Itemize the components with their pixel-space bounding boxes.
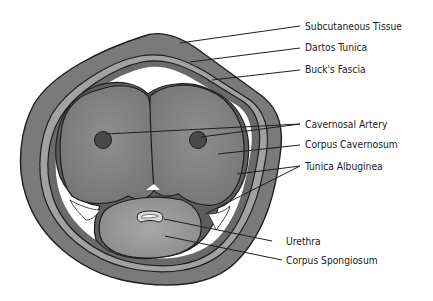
label-corpus-spongiosum: Corpus Spongiosum — [286, 255, 378, 266]
label-dartos-tunica: Dartos Tunica — [305, 42, 367, 53]
label-bucks-fascia: Buck's Fascia — [305, 64, 366, 75]
label-subcutaneous-tissue: Subcutaneous Tissue — [305, 21, 402, 32]
label-cavernosal-artery: Cavernosal Artery — [305, 119, 388, 130]
label-urethra: Urethra — [286, 236, 321, 247]
label-corpus-cavernosum: Corpus Cavernosum — [305, 139, 398, 150]
label-tunica-albuginea: Tunica Albuginea — [304, 161, 383, 172]
penis-cross-section-diagram: Subcutaneous Tissue Dartos Tunica Buck's… — [0, 0, 433, 301]
corpus-spongiosum — [99, 197, 201, 258]
cavernosal-artery-right — [190, 132, 207, 149]
